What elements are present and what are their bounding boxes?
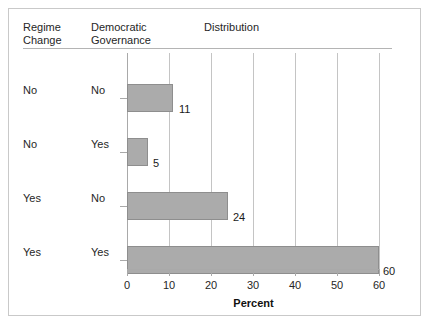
row-tick-2 [120,152,127,153]
bar-row-2[interactable] [127,138,148,166]
row-label-regime-change-3: Yes [23,192,41,204]
bar-value-label-1: 11 [179,104,190,115]
x-tick-label-0: 0 [124,279,130,291]
row-label-regime-change-4: Yes [23,246,41,258]
x-tick-mark-20 [211,270,212,276]
x-tick-mark-30 [253,270,254,276]
plot-area: 11 5 24 60 [127,53,379,269]
x-tick-mark-60 [379,270,380,276]
row-label-democratic-governance-2: Yes [91,138,109,150]
row-tick-1 [120,98,127,99]
column-header-democratic-governance: Democratic Governance [91,21,151,46]
bar-value-label-2: 5 [153,158,159,169]
row-label-regime-change-2: No [23,138,37,150]
x-axis-title: Percent [127,297,380,309]
chart-figure: Regime Change Democratic Governance Dist… [8,8,421,316]
gridline-20 [211,53,212,269]
bar-value-label-4: 60 [383,266,395,277]
row-label-democratic-governance-1: No [91,84,105,96]
gridline-60 [379,53,380,269]
column-header-distribution: Distribution [204,21,259,34]
x-tick-mark-10 [169,270,170,276]
bar-row-1[interactable] [127,84,173,112]
x-tick-label-60: 60 [373,279,385,291]
row-tick-3 [120,206,127,207]
row-label-regime-change-1: No [23,84,37,96]
bar-row-3[interactable] [127,192,228,220]
x-tick-label-50: 50 [331,279,343,291]
x-tick-label-40: 40 [289,279,301,291]
row-label-democratic-governance-4: Yes [91,246,109,258]
row-label-democratic-governance-3: No [91,192,105,204]
row-tick-4 [120,260,127,261]
gridline-50 [337,53,338,269]
header-separator-rule [23,48,392,49]
x-tick-label-20: 20 [205,279,217,291]
column-header-regime-change: Regime Change [23,21,62,46]
gridline-30 [253,53,254,269]
bar-value-label-3: 24 [233,212,245,223]
x-tick-mark-50 [337,270,338,276]
gridline-40 [295,53,296,269]
x-tick-mark-0 [127,270,128,276]
x-tick-mark-40 [295,270,296,276]
x-tick-label-10: 10 [163,279,175,291]
x-tick-label-30: 30 [247,279,259,291]
